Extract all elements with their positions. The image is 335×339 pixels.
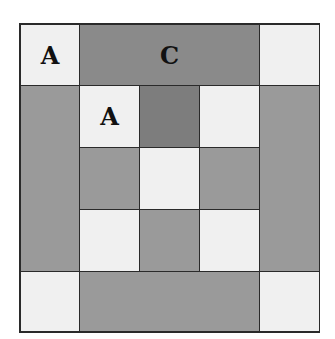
- quilt-block: A C A: [19, 23, 320, 333]
- inner-cell-2-2: [139, 147, 200, 210]
- inner-cell-3-1: [79, 209, 140, 272]
- corner-bottom-left-square: [20, 271, 80, 332]
- corner-bottom-right-square: [259, 271, 320, 332]
- left-bar: [20, 85, 80, 272]
- corner-top-right-square: [259, 24, 320, 86]
- top-bar: C: [79, 24, 260, 86]
- label-a-corner: A: [41, 41, 60, 70]
- label-a-inner: A: [100, 102, 119, 131]
- inner-cell-2-3: [199, 147, 260, 210]
- inner-cell-3-3: [199, 209, 260, 272]
- inner-cell-2-1: [79, 147, 140, 210]
- right-bar: [259, 85, 320, 272]
- inner-cell-1-2: [139, 85, 200, 148]
- inner-cell-1-1: A: [79, 85, 140, 148]
- inner-cell-3-2: [139, 209, 200, 272]
- inner-cell-1-3: [199, 85, 260, 148]
- bottom-bar: [79, 271, 260, 332]
- label-c-top-bar: C: [160, 41, 179, 70]
- corner-top-left-square: A: [20, 24, 80, 86]
